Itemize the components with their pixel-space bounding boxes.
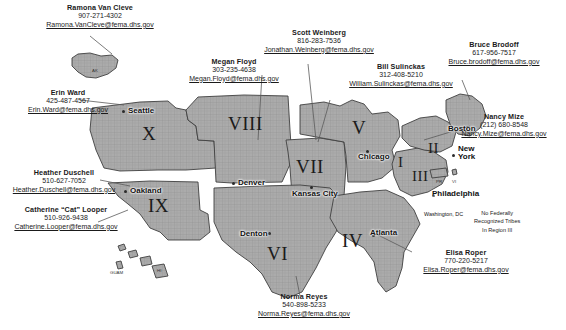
region-numeral-ii: II	[428, 140, 439, 157]
region-numeral-vii: VII	[296, 156, 324, 178]
contact-nancy-mize: Nancy Mize (212) 680-8548 Nancy.Mize@fem…	[442, 113, 566, 138]
contact-norma-reyes: Norma Reyes 540-898-5233 Norma.Reyes@fem…	[236, 293, 372, 318]
contact-name: Nancy Mize	[442, 113, 566, 121]
city-dot-new-york	[452, 154, 455, 157]
contact-name: Catherine “Cat” Looper	[0, 206, 134, 214]
contact-phone: 312-408-5210	[330, 71, 472, 79]
city-dot-denton	[268, 232, 271, 235]
contact-email[interactable]: Ramona.VanCleve@fema.dhs.gov	[16, 21, 184, 29]
region-vi-southwest	[214, 185, 344, 298]
contact-email[interactable]: Jonathan.Weinberg@fema.dhs.gov	[246, 46, 392, 54]
contact-email[interactable]: Erin.Ward@fema.dhs.gov	[4, 106, 132, 114]
territory-label-ak: AK	[92, 68, 98, 73]
city-label-atlanta: Atlanta	[370, 228, 397, 237]
contact-email[interactable]: Nancy.Mize@fema.dhs.gov	[442, 130, 566, 138]
city-label-denver: Denver	[238, 178, 265, 187]
region-numeral-v: V	[352, 117, 366, 139]
region-numeral-iii: III	[412, 168, 429, 185]
city-dot-denver	[232, 182, 235, 185]
contact-email[interactable]: Elisa.Roper@fema.dhs.gov	[404, 266, 528, 274]
contact-name: Erin Ward	[4, 89, 132, 97]
city-label-chicago: Chicago	[358, 152, 390, 161]
city-label-denton: Denton	[240, 229, 268, 238]
contact-megan-floyd: Megan Floyd 303-235-4638 Megan.Floyd@fem…	[172, 58, 296, 83]
city-label-oakland: Oakland	[130, 186, 162, 195]
contact-phone: 907-271-4302	[16, 12, 184, 20]
contact-phone: 770-220-5217	[404, 257, 528, 265]
region-numeral-iv: IV	[342, 230, 363, 252]
region-numeral-vi: VI	[267, 243, 288, 265]
region-numeral-ix: IX	[148, 195, 169, 217]
region-iii-tribes-note: No Federally Recognized Tribes In Region…	[474, 209, 520, 234]
note-line-1: No Federally	[474, 209, 520, 217]
contact-email[interactable]: Heather.Duschell@fema.dhs.gov	[0, 186, 130, 194]
contact-email[interactable]: Norma.Reyes@fema.dhs.gov	[236, 310, 372, 318]
contact-name: Megan Floyd	[172, 58, 296, 66]
region-numeral-x: X	[142, 123, 156, 145]
territory-label-vi: VI	[452, 179, 456, 184]
region-x-alaska	[72, 53, 118, 78]
region-viii-mountain	[186, 95, 292, 183]
contact-phone: 510-627-7052	[0, 177, 130, 185]
contact-phone: 303-235-4638	[172, 66, 296, 74]
contact-email[interactable]: Megan.Floyd@fema.dhs.gov	[172, 75, 296, 83]
contact-bruce-brodoff: Bruce Brodoff 617-956-7517 Bruce.brodoff…	[426, 41, 562, 66]
contact-bill-sulinckas: Bill Sulinckas 312-408-5210 William.Suli…	[330, 63, 472, 88]
contact-heather-duschell: Heather Duschell 510-627-7052 Heather.Du…	[0, 169, 130, 194]
city-label-new-york: New York	[458, 145, 482, 162]
territory-label-guam: GUAM	[110, 270, 123, 275]
territory-label-hi: HI	[157, 268, 161, 273]
city-label-washington-dc: Washington, DC	[424, 211, 463, 217]
contact-phone: (212) 680-8548	[442, 121, 566, 129]
contact-name: Bruce Brodoff	[426, 41, 562, 49]
contact-phone: 425-487-4567	[4, 97, 132, 105]
contact-email[interactable]: William.Sulinckas@fema.dhs.gov	[330, 80, 472, 88]
guam-island	[116, 261, 123, 269]
city-label-kansas-city: Kansas City	[292, 189, 338, 198]
contact-ramona-van-cleve: Ramona Van Cleve 907-271-4302 Ramona.Van…	[16, 4, 184, 29]
contact-phone: 617-956-7517	[426, 49, 562, 57]
usvi-island	[452, 169, 457, 175]
contact-name: Ramona Van Cleve	[16, 4, 184, 12]
contact-name: Elisa Roper	[404, 249, 528, 257]
contact-phone: 510-926-9438	[0, 214, 134, 222]
contact-phone: 540-898-5233	[236, 301, 372, 309]
contact-name: Norma Reyes	[236, 293, 372, 301]
city-label-philadelphia: Philadelphia	[432, 189, 479, 198]
contact-erin-ward: Erin Ward 425-487-4567 Erin.Ward@fema.dh…	[4, 89, 132, 114]
contact-phone: 816-283-7536	[246, 37, 392, 45]
contact-email[interactable]: Catherine.Looper@fema.dhs.gov	[0, 223, 134, 231]
contact-elisa-roper: Elisa Roper 770-220-5217 Elisa.Roper@fem…	[404, 249, 528, 274]
fema-regional-map: X IX VIII VII VI V IV III II I Seattle O…	[0, 0, 566, 330]
territory-label-pr: PR	[436, 179, 442, 184]
note-line-3: In Region III	[474, 226, 520, 234]
contact-name: Scott Weinberg	[246, 29, 392, 37]
puerto-rico-island	[430, 168, 448, 178]
contact-name: Heather Duschell	[0, 169, 130, 177]
region-numeral-i: I	[398, 154, 404, 171]
contact-catherine-looper: Catherine “Cat” Looper 510-926-9438 Cath…	[0, 206, 134, 231]
region-numeral-viii: VIII	[228, 113, 263, 135]
note-line-2: Recognized Tribes	[474, 217, 520, 225]
contact-email[interactable]: Bruce.brodoff@fema.dhs.gov	[426, 58, 562, 66]
contact-scott-weinberg: Scott Weinberg 816-283-7536 Jonathan.Wei…	[246, 29, 392, 54]
